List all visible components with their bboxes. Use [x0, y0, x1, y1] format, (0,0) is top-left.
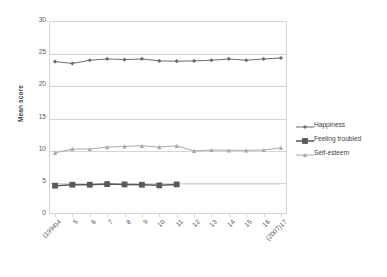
legend-label: Self-esteem	[314, 150, 349, 157]
legend-item-happiness[interactable]: Happiness	[296, 118, 384, 132]
square-marker-icon	[296, 133, 314, 145]
legend-label: Feeling troubled	[314, 136, 361, 143]
data-point-marker	[156, 182, 162, 188]
x-tick-mark	[281, 214, 282, 217]
x-tick-mark	[264, 214, 265, 217]
series-layer	[49, 21, 287, 214]
y-tick-label: 30	[20, 17, 46, 24]
triangle-marker-icon	[296, 147, 314, 159]
series-happiness	[53, 56, 283, 66]
x-tick-mark	[55, 214, 56, 217]
data-point-marker	[88, 58, 92, 62]
data-point-marker	[157, 59, 161, 63]
data-point-marker	[69, 182, 75, 188]
y-tick-label: 0	[20, 210, 46, 217]
data-point-marker	[279, 56, 283, 60]
data-point-marker	[209, 58, 213, 62]
data-point-marker	[139, 182, 145, 188]
data-point-marker	[244, 58, 248, 62]
data-point-marker	[175, 59, 179, 63]
series-self-esteem	[53, 144, 283, 155]
data-point-marker	[53, 59, 57, 63]
data-point-marker	[104, 181, 110, 187]
data-point-marker	[105, 57, 109, 61]
data-point-marker	[87, 182, 93, 188]
data-point-marker	[70, 61, 74, 65]
data-point-marker	[262, 57, 266, 61]
legend-label: Happiness	[314, 122, 345, 129]
x-tick-mark	[107, 214, 108, 217]
x-tick-mark	[177, 214, 178, 217]
x-tick-mark	[72, 214, 73, 217]
diamond-marker-icon	[296, 119, 314, 131]
y-tick-label: 20	[20, 81, 46, 88]
data-point-marker	[140, 57, 144, 61]
data-point-marker	[122, 58, 126, 62]
data-point-marker	[192, 59, 196, 63]
legend-item-self-esteem[interactable]: Self-esteem	[296, 146, 384, 160]
x-tick-mark	[229, 214, 230, 217]
chart-legend: HappinessFeeling troubledSelf-esteem	[296, 118, 384, 160]
x-tick-mark	[90, 214, 91, 217]
x-tick-mark	[194, 214, 195, 217]
y-tick-label: 5	[20, 178, 46, 185]
x-tick-mark	[159, 214, 160, 217]
line-chart: Mean score 051015202530 (1994)4567891011…	[0, 0, 387, 277]
y-tick-label: 15	[20, 114, 46, 121]
y-tick-label: 25	[20, 49, 46, 56]
x-tick-mark	[211, 214, 212, 217]
x-tick-mark	[125, 214, 126, 217]
y-axis-title: Mean score	[17, 64, 24, 144]
data-point-marker	[52, 183, 58, 189]
data-point-marker	[122, 182, 128, 188]
legend-item-feeling-troubled[interactable]: Feeling troubled	[296, 132, 384, 146]
y-tick-label: 10	[20, 146, 46, 153]
x-tick-mark	[142, 214, 143, 217]
series-feeling-troubled	[52, 181, 281, 188]
data-point-marker	[174, 182, 180, 188]
data-point-marker	[227, 57, 231, 61]
x-tick-mark	[246, 214, 247, 217]
